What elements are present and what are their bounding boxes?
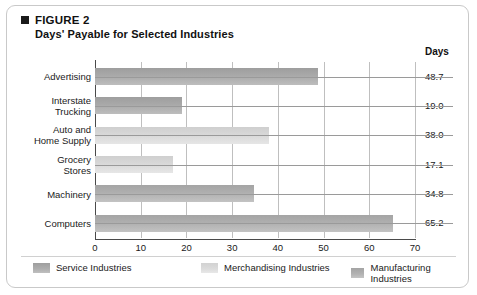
legend-swatch (201, 263, 218, 273)
legend-item: Service Industries (33, 262, 132, 273)
category-label: GroceryStores (13, 154, 91, 176)
legend-item: Manufacturing Industries (351, 262, 453, 284)
legend-item: Merchandising Industries (201, 262, 330, 273)
category-label: InterstateTrucking (13, 95, 91, 117)
category-label-line: Trucking (13, 106, 91, 117)
x-axis-line (95, 239, 416, 240)
days-value-column: Days 48.719.038.017.134.865.2 (425, 46, 471, 57)
days-column-header: Days (425, 46, 471, 57)
category-label-line: Advertising (13, 71, 91, 82)
category-axis-labels: AdvertisingInterstateTruckingAuto andHom… (11, 62, 91, 238)
value-leader-line (95, 223, 453, 224)
legend-label: Service Industries (56, 262, 132, 273)
legend-label: Merchandising Industries (224, 262, 330, 273)
grid-line (415, 62, 416, 238)
category-label-line: Auto and (13, 124, 91, 135)
x-tick-label: 40 (273, 242, 284, 253)
x-tick-label: 70 (410, 242, 421, 253)
category-label-line: Interstate (13, 95, 91, 106)
value-leader-line (95, 194, 453, 195)
value-leader-line (95, 106, 453, 107)
value-leader-line (95, 77, 453, 78)
category-label-line: Home Supply (13, 135, 91, 146)
x-tick-label: 10 (135, 242, 146, 253)
category-label-line: Machinery (13, 189, 91, 200)
category-label: Auto andHome Supply (13, 124, 91, 146)
figure-label: FIGURE 2 (35, 14, 90, 26)
x-tick-label: 20 (181, 242, 192, 253)
x-tick-label: 60 (364, 242, 375, 253)
square-bullet-icon (21, 16, 29, 24)
figure-subtitle: Days' Payable for Selected Industries (35, 28, 451, 40)
chart-legend: Service IndustriesMerchandising Industri… (33, 262, 453, 278)
plot-area (95, 62, 415, 238)
legend-swatch (33, 263, 50, 273)
x-tick-label: 50 (318, 242, 329, 253)
category-label-line: Stores (13, 165, 91, 176)
figure-title-row: FIGURE 2 (21, 14, 451, 26)
category-label: Machinery (13, 189, 91, 200)
category-label: Advertising (13, 71, 91, 82)
x-axis-tick-labels: 010203040506070 (95, 242, 416, 256)
figure-header: FIGURE 2 Days' Payable for Selected Indu… (21, 14, 451, 40)
value-leader-line (95, 165, 453, 166)
figure-card: FIGURE 2 Days' Payable for Selected Indu… (6, 5, 469, 288)
x-tick-label: 30 (227, 242, 238, 253)
category-label: Computers (13, 218, 91, 229)
value-leader-line (95, 135, 453, 136)
category-label-line: Grocery (13, 154, 91, 165)
legend-swatch (351, 268, 364, 278)
legend-separator (21, 256, 456, 257)
x-tick-label: 0 (92, 242, 97, 253)
legend-label: Manufacturing Industries (370, 262, 453, 284)
category-label-line: Computers (13, 218, 91, 229)
